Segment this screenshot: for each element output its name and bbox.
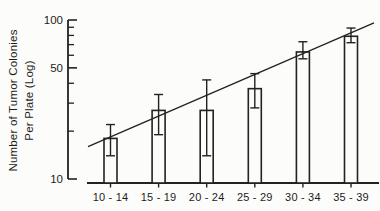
x-category-label: 25 - 29 [237, 191, 273, 203]
tumor-colonies-bar-chart: 100501010 - 1415 - 1920 - 2425 - 2930 - … [0, 0, 380, 211]
y-tick-label: 50 [50, 62, 63, 74]
y-tick-label: 10 [50, 173, 63, 185]
trend-line [88, 23, 374, 147]
x-category-label: 10 - 14 [93, 191, 129, 203]
x-category-label: 15 - 19 [141, 191, 177, 203]
x-category-label: 30 - 34 [285, 191, 321, 203]
bar [296, 52, 309, 183]
y-axis-title-line1: Number of Tumor Colonies [7, 16, 20, 186]
x-category-label: 35 - 39 [333, 191, 369, 203]
y-axis-title-line2: Per Plate (Log) [23, 16, 36, 186]
bar [345, 36, 358, 183]
chart-canvas: 100501010 - 1415 - 1920 - 2425 - 2930 - … [0, 0, 380, 211]
x-category-label: 20 - 24 [189, 191, 225, 203]
y-tick-label: 100 [44, 14, 63, 26]
